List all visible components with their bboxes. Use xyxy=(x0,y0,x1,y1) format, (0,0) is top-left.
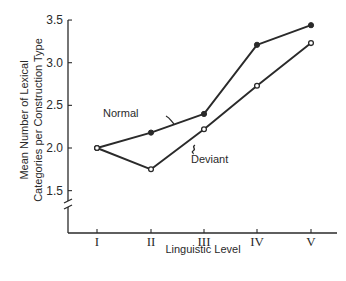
x-tick-label: II xyxy=(147,234,156,249)
deviant-data-point xyxy=(149,167,154,172)
normal-data-point xyxy=(201,111,206,116)
deviant-data-point xyxy=(202,127,207,132)
x-tick-label: I xyxy=(95,234,99,249)
y-tick-label: 2.5 xyxy=(46,98,63,112)
normal-data-point xyxy=(308,23,313,28)
x-axis-label: Linguistic Level xyxy=(165,243,240,255)
normal-leader-curl xyxy=(166,116,174,124)
y-axis-label-line2: Categories per Construction Type xyxy=(32,38,44,202)
normal-data-point xyxy=(254,42,259,47)
y-tick-label: 3.5 xyxy=(46,13,63,27)
deviant-data-point xyxy=(255,83,260,88)
y-tick-label: 2.0 xyxy=(46,141,63,155)
line-chart: 1.52.02.53.03.5 IIIIIIIVV Linguistic Lev… xyxy=(0,0,346,281)
x-tick-label: V xyxy=(306,234,316,249)
normal-annotation: Normal xyxy=(103,107,138,119)
y-axis-label-line1: Mean Number of Lexical xyxy=(18,60,30,179)
deviant-data-point xyxy=(95,146,100,151)
deviant-data-point xyxy=(309,41,314,46)
x-tick-label: IV xyxy=(250,234,264,249)
deviant-annotation: Deviant xyxy=(191,153,228,165)
y-tick-label: 3.0 xyxy=(46,56,63,70)
normal-data-point xyxy=(148,130,153,135)
y-tick-label: 1.5 xyxy=(46,184,63,198)
